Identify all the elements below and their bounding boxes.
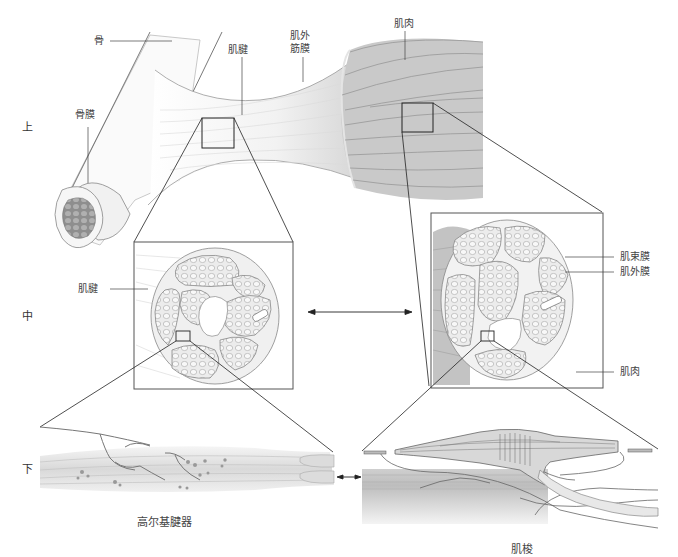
- label-periosteum: 骨膜: [75, 109, 95, 121]
- compare-arrow-middle: [308, 310, 412, 315]
- level-label-middle: 中: [22, 307, 33, 323]
- label-tendon-middle: 肌腱: [78, 283, 98, 295]
- label-muscle-middle: 肌肉: [620, 366, 640, 378]
- caption-muscle-spindle: 肌梭: [511, 540, 533, 556]
- label-epimysium-top-line1: 肌外: [290, 30, 310, 42]
- label-epimysium-middle: 肌外膜: [620, 266, 650, 278]
- muscle-spindle: [362, 429, 658, 528]
- label-bone: 骨: [94, 35, 104, 47]
- muscle-belly: [341, 38, 483, 200]
- label-perimysium: 肌束膜: [620, 251, 650, 263]
- caption-golgi-tendon-organ: 高尔基腱器: [137, 513, 192, 529]
- label-tendon-top: 肌腱: [228, 44, 248, 56]
- muscle-cross-section: [431, 213, 603, 388]
- level-label-top: 上: [22, 118, 33, 134]
- tendon-cross-section: [134, 242, 293, 389]
- diagram-graphics: [0, 0, 678, 557]
- label-epimysium-top-line2: 筋膜: [290, 43, 310, 55]
- golgi-tendon-organ: [40, 427, 334, 492]
- anatomy-diagram: 上 中 下 骨 骨膜 肌腱 肌外 筋膜 肌肉 肌腱 肌束膜 肌外膜 肌肉 高尔基…: [0, 0, 678, 557]
- label-muscle-top: 肌肉: [394, 18, 414, 30]
- compare-arrow-bottom: [337, 475, 361, 479]
- level-label-bottom: 下: [22, 460, 33, 476]
